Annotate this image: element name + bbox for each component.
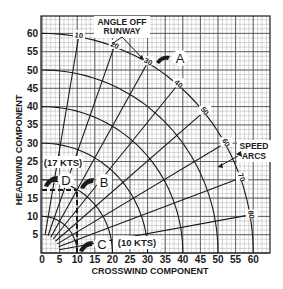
x-tick-label: 20 [107, 254, 119, 265]
y-tick-label: 40 [27, 101, 39, 112]
y-tick-label: 15 [27, 193, 39, 204]
angle-label: 20 [109, 40, 120, 51]
angle-label: 80 [246, 210, 256, 220]
crosswind-chart: 1020304050607080 05101520253035404550556… [0, 0, 283, 289]
y-tick-label: 20 [27, 174, 39, 185]
y-tick-label: 55 [27, 46, 39, 57]
x-tick-label: 60 [248, 254, 260, 265]
x-axis-ticks: 051015202530354045505560 [39, 254, 259, 265]
y-axis-ticks: 51015202530354045505560 [27, 28, 39, 240]
point-d-label: D [61, 173, 70, 188]
speed-label-line1: SPEED [240, 141, 269, 151]
angle-label: 10 [74, 30, 84, 40]
speed-label-line2: ARCS [242, 151, 266, 161]
point-c-marker: C (10 KTS) [79, 236, 161, 252]
x-tick-label: 10 [72, 254, 84, 265]
angle-off-runway-annotation: ANGLE OFF RUNWAY [94, 16, 150, 60]
y-tick-label: 45 [27, 83, 39, 94]
y-tick-label: 50 [27, 65, 39, 76]
kts-10-label: (10 KTS) [118, 237, 157, 248]
y-tick-label: 60 [27, 28, 39, 39]
x-tick-label: 45 [195, 254, 207, 265]
y-tick-label: 10 [27, 211, 39, 222]
y-axis-title: HEADWIND COMPONENT [14, 94, 24, 205]
x-tick-label: 50 [212, 254, 224, 265]
x-tick-label: 0 [39, 254, 45, 265]
kts-17-annotation: (17 KTS) [43, 156, 83, 168]
x-axis-title: CROSSWIND COMPONENT [92, 266, 210, 276]
angle-title-line2: RUNWAY [104, 26, 141, 36]
y-tick-label: 30 [27, 138, 39, 149]
y-tick-label: 25 [27, 156, 39, 167]
x-tick-label: 55 [230, 254, 242, 265]
x-tick-label: 15 [89, 254, 101, 265]
x-tick-label: 5 [57, 254, 63, 265]
x-tick-label: 25 [124, 254, 136, 265]
point-c-label: C [97, 237, 106, 252]
arrow-a-icon [156, 56, 170, 64]
y-tick-label: 35 [27, 119, 39, 130]
x-tick-label: 40 [177, 254, 189, 265]
x-tick-label: 30 [142, 254, 154, 265]
x-tick-label: 35 [160, 254, 172, 265]
point-d-marker: D [44, 172, 74, 188]
point-a-label: A [176, 51, 185, 66]
kts-17-label: (17 KTS) [44, 157, 83, 168]
y-tick-label: 5 [32, 229, 38, 240]
point-b-label: B [100, 175, 109, 190]
